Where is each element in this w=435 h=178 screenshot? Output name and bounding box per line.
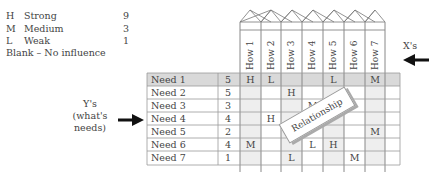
need-weight: 4: [225, 113, 231, 124]
need-name: Need 2: [151, 87, 186, 98]
need-weight: 5: [225, 87, 231, 98]
how-header: How 7: [370, 40, 380, 70]
need-name: Need 1: [151, 74, 186, 85]
need-name: Need 3: [151, 100, 186, 111]
need-weight: 3: [225, 100, 231, 111]
matrix-cell: L: [323, 74, 344, 85]
matrix-cell: M: [365, 126, 385, 137]
need-weight: 5: [225, 74, 231, 85]
matrix-cell: H: [240, 74, 261, 85]
need-weight: 1: [225, 152, 231, 163]
need-name: Need 5: [151, 126, 186, 137]
matrix-cell: M: [240, 139, 261, 150]
matrix-cell: M: [365, 74, 385, 85]
how-header: How 6: [349, 40, 359, 70]
need-name: Need 4: [151, 113, 186, 124]
matrix-cell: H: [261, 113, 281, 124]
need-name: Need 6: [151, 139, 186, 150]
matrix-cell: H: [323, 139, 344, 150]
matrix-cell: L: [281, 152, 302, 163]
need-weight: 4: [225, 139, 231, 150]
need-name: Need 7: [151, 152, 186, 163]
matrix-cell: H: [281, 87, 302, 98]
matrix-cell: L: [261, 74, 281, 85]
house-of-quality-grid: [0, 0, 435, 178]
how-header: How 4: [307, 40, 317, 70]
matrix-cell: L: [302, 139, 323, 150]
how-header: How 5: [328, 40, 338, 70]
how-header: How 3: [286, 40, 296, 70]
how-header: How 2: [266, 40, 276, 70]
need-weight: 2: [225, 126, 231, 137]
matrix-cell: M: [344, 152, 365, 163]
how-header: How 1: [245, 40, 255, 70]
